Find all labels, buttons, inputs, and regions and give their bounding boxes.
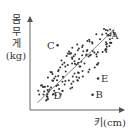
data-point (55, 76, 57, 78)
data-point (44, 86, 46, 88)
data-point (68, 51, 70, 53)
data-point (50, 87, 52, 89)
data-point (78, 77, 80, 79)
y-axis-label-line: 몸 (5, 14, 27, 26)
data-point (95, 33, 97, 35)
data-point (88, 56, 90, 58)
data-point (105, 51, 107, 53)
data-point (71, 87, 73, 89)
data-point (47, 89, 49, 91)
x-axis-label: 키(cm) (94, 114, 126, 129)
data-point (86, 40, 88, 42)
data-point (95, 53, 97, 55)
point-label-a: A (110, 30, 119, 41)
data-point (57, 75, 59, 77)
data-point (74, 54, 76, 56)
data-point (88, 39, 90, 41)
data-point (82, 70, 84, 72)
data-point (57, 70, 59, 72)
point-c (56, 44, 59, 47)
data-point (61, 64, 63, 66)
data-point (47, 98, 49, 100)
data-point (64, 84, 66, 86)
data-point (68, 53, 70, 55)
data-point (51, 80, 53, 82)
data-point (61, 81, 63, 83)
data-point (105, 44, 107, 46)
data-point (99, 38, 101, 40)
data-point (74, 63, 76, 65)
point-label-e: E (101, 73, 108, 84)
data-point (96, 64, 98, 66)
data-point (87, 71, 89, 73)
data-point (74, 73, 76, 75)
data-point (56, 79, 58, 81)
data-point (53, 78, 55, 80)
point-label-b: B (96, 89, 103, 100)
data-point (105, 33, 107, 35)
data-point (102, 51, 104, 53)
data-point (61, 59, 63, 61)
labeled-points: ABCDE (47, 30, 119, 101)
point-label-c: C (47, 40, 55, 51)
data-point (103, 28, 105, 30)
data-point (43, 91, 45, 93)
data-point (81, 46, 83, 48)
y-axis-label-line: (kg) (5, 50, 27, 62)
data-point (105, 29, 107, 31)
data-point (64, 80, 66, 82)
data-point (107, 29, 109, 31)
data-point (97, 51, 99, 53)
data-point (81, 54, 83, 56)
data-point (91, 43, 93, 45)
point-b (91, 93, 94, 96)
scatter-chart: ABCDE 몸 무 게 (kg) 키(cm) (0, 0, 136, 132)
data-point (43, 93, 45, 95)
data-point (65, 70, 67, 72)
data-point (67, 64, 69, 66)
data-point (78, 58, 80, 60)
data-point (41, 84, 43, 86)
data-point (71, 58, 73, 60)
data-point (106, 46, 108, 48)
data-point (77, 49, 79, 51)
data-point (90, 54, 92, 56)
point-label-d: D (54, 90, 62, 101)
point-a (107, 34, 110, 37)
y-axis-label-line: 게 (5, 38, 27, 50)
data-point (71, 47, 73, 49)
y-axis-label: 몸 무 게 (kg) (5, 14, 27, 62)
data-point (82, 50, 84, 52)
data-point (77, 72, 79, 74)
data-point (76, 44, 78, 46)
data-point (73, 55, 75, 57)
data-point (79, 66, 81, 68)
data-point (59, 66, 61, 68)
data-point (63, 62, 65, 64)
data-point (71, 63, 73, 65)
data-point (38, 93, 40, 95)
data-point (47, 85, 49, 87)
data-point (66, 55, 68, 57)
data-point (47, 77, 49, 79)
data-point (101, 33, 103, 35)
data-point (76, 79, 78, 81)
data-point (68, 80, 70, 82)
data-point (64, 65, 66, 67)
data-point (52, 73, 54, 75)
data-point (84, 62, 86, 64)
data-point (89, 41, 91, 43)
point-e (97, 77, 100, 80)
data-point (72, 76, 74, 78)
data-point (108, 45, 110, 47)
data-point (88, 69, 90, 71)
data-point (37, 90, 39, 92)
data-point (76, 76, 78, 78)
data-point (78, 48, 80, 50)
data-point (93, 51, 95, 53)
data-point (70, 88, 72, 90)
data-point (109, 42, 111, 44)
data-point (74, 60, 76, 62)
data-point (96, 56, 98, 58)
data-point (105, 48, 107, 50)
